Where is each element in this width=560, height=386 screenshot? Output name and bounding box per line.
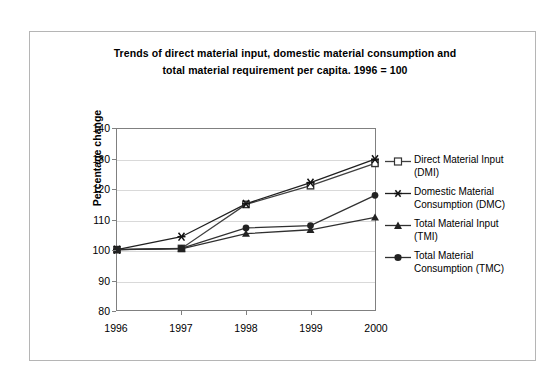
legend-label-dmi-line1: Direct Material Input <box>414 154 503 167</box>
plot-area <box>116 128 376 311</box>
x-tick-label-1999: 1999 <box>286 322 336 334</box>
legend-label-dmi-line2: (DMI) <box>414 167 503 180</box>
y-tick-mark-110 <box>112 220 116 221</box>
y-tick-label-100: 100 <box>76 245 110 255</box>
y-tick-label-110: 110 <box>76 215 110 225</box>
y-tick-mark-140 <box>112 128 116 129</box>
data-point-circle-icon <box>372 192 379 199</box>
plot-series-svg <box>117 129 375 310</box>
y-tick-label-140: 140 <box>76 123 110 133</box>
y-tick-mark-80 <box>112 311 116 312</box>
y-tick-label-130: 130 <box>76 154 110 164</box>
y-tick-label-90: 90 <box>76 276 110 286</box>
legend-label-tmi: Total Material Input (TMI) <box>414 218 499 243</box>
data-point-triangle-icon <box>371 213 379 220</box>
legend-marker-star-icon <box>385 187 411 200</box>
legend-label-dmi: Direct Material Input (DMI) <box>414 154 503 179</box>
series-dmc <box>113 155 379 253</box>
data-point-star-icon <box>178 233 186 241</box>
x-tick-label-1997: 1997 <box>156 322 206 334</box>
legend-label-dmc-line2: Consumption (DMC) <box>414 199 505 212</box>
y-tick-mark-130 <box>112 159 116 160</box>
legend-marker-triangle-filled-icon <box>385 219 411 232</box>
x-tick-mark-1999 <box>311 311 312 315</box>
y-tick-mark-100 <box>112 250 116 251</box>
series-dmi <box>114 160 378 253</box>
x-tick-label-2000: 2000 <box>351 322 401 334</box>
legend-item-dmc[interactable]: Domestic Material Consumption (DMC) <box>385 186 530 211</box>
chart-title-line-2: total material requirement per capita. 1… <box>70 62 500 79</box>
legend-label-tmc: Total Material Consumption (TMC) <box>414 250 504 275</box>
figure-frame: Trends of direct material input, domesti… <box>29 31 536 361</box>
legend-label-tmc-line1: Total Material <box>414 250 504 263</box>
chart-legend: Direct Material Input (DMI) Domestic Mat… <box>385 154 530 282</box>
legend-item-tmi[interactable]: Total Material Input (TMI) <box>385 218 530 243</box>
series-tmi <box>113 213 379 252</box>
legend-item-dmi[interactable]: Direct Material Input (DMI) <box>385 154 530 179</box>
data-point-circle-icon <box>243 225 250 232</box>
data-point-circle-icon <box>178 245 185 252</box>
y-tick-label-120: 120 <box>76 184 110 194</box>
y-tick-mark-120 <box>112 189 116 190</box>
legend-label-tmi-line2: (TMI) <box>414 231 499 244</box>
legend-item-tmc[interactable]: Total Material Consumption (TMC) <box>385 250 530 275</box>
x-tick-label-1998: 1998 <box>221 322 271 334</box>
legend-label-dmc: Domestic Material Consumption (DMC) <box>414 186 505 211</box>
legend-marker-circle-filled-icon <box>385 251 411 264</box>
legend-marker-square-open-icon <box>385 155 411 168</box>
legend-label-tmi-line1: Total Material Input <box>414 218 499 231</box>
x-tick-mark-1998 <box>246 311 247 315</box>
y-tick-label-80: 80 <box>76 306 110 316</box>
legend-label-dmc-line1: Domestic Material <box>414 186 505 199</box>
legend-label-tmc-line2: Consumption (TMC) <box>414 263 504 276</box>
y-tick-mark-90 <box>112 281 116 282</box>
chart-title-line-1: Trends of direct material input, domesti… <box>70 45 500 62</box>
x-tick-mark-1997 <box>181 311 182 315</box>
x-tick-label-1996: 1996 <box>91 322 141 334</box>
chart-title: Trends of direct material input, domesti… <box>70 45 500 79</box>
data-point-circle-icon <box>307 222 314 229</box>
